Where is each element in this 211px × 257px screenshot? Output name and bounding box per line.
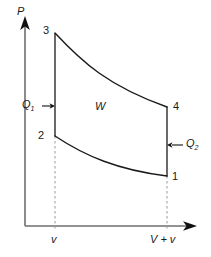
pv-diagram-canvas <box>0 0 211 257</box>
state-point-label-4: 4 <box>173 101 179 112</box>
state-point-label-3: 3 <box>43 25 49 36</box>
pv-diagram: P v V + v 3 4 2 1 W Q1 Q2 <box>0 0 211 257</box>
heat-in-label: Q1 <box>22 99 34 112</box>
state-point-label-2: 2 <box>38 130 44 141</box>
state-point-label-1: 1 <box>172 171 178 182</box>
heat-in-subscript: 1 <box>31 105 35 112</box>
heat-out-arrow <box>167 142 183 148</box>
process-curve-2-1 <box>55 136 167 176</box>
work-label: W <box>95 101 105 112</box>
heat-in-symbol: Q <box>22 98 31 110</box>
heat-in-arrow <box>42 103 55 109</box>
heat-out-symbol: Q <box>186 137 195 149</box>
heat-out-label: Q2 <box>186 138 198 151</box>
x-tick-label-v: v <box>51 234 57 245</box>
heat-out-subscript: 2 <box>195 144 199 151</box>
x-tick-label-v-plus-v: V + v <box>150 234 175 245</box>
y-axis-label: P <box>17 6 24 17</box>
process-curve-3-4 <box>55 33 167 107</box>
